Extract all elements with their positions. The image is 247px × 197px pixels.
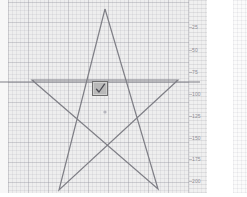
checkbox-widget[interactable]: [92, 81, 108, 96]
ruler-tick-label-50: 50: [189, 46, 207, 55]
graph-paper-canvas[interactable]: [8, 0, 200, 197]
app-root: 25 50 75 100 125 150 175 200: [0, 0, 247, 197]
vertical-ruler[interactable]: 25 50 75 100 125 150 175 200: [189, 0, 207, 197]
checkmark-icon: [94, 82, 107, 95]
ruler-tick-label-150: 150: [189, 134, 207, 143]
panel-gutter: [207, 0, 233, 197]
ruler-tick-label-200: 200: [189, 177, 207, 186]
ruler-tick-label-25: 25: [189, 23, 207, 32]
bottom-edge-fade: [0, 193, 247, 197]
ruler-tick-label-100: 100: [189, 90, 207, 99]
ruler-tick-label-175: 175: [189, 155, 207, 164]
ruler-tick-label-125: 125: [189, 112, 207, 121]
ruler-tick-label-75: 75: [189, 68, 207, 77]
secondary-grid-panel[interactable]: [233, 0, 247, 197]
